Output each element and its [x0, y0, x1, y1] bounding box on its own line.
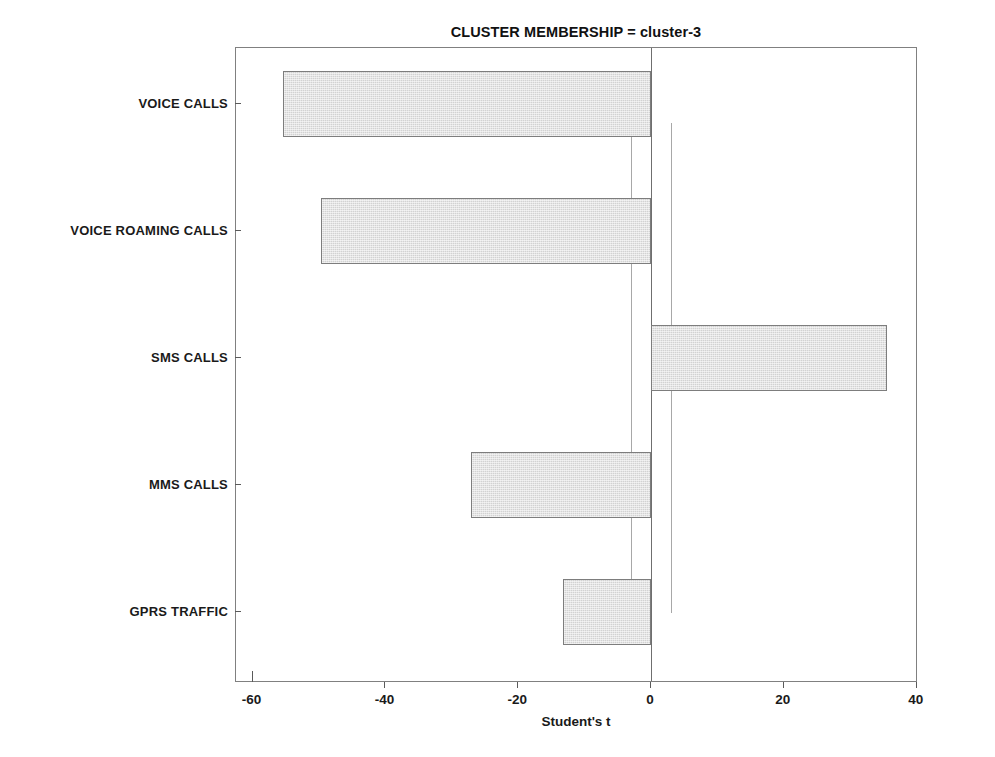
x-axis-tick-label: -20	[507, 692, 527, 707]
reference-line-negative	[631, 123, 632, 613]
x-axis-tick-label: -40	[375, 692, 395, 707]
bar	[321, 198, 651, 264]
bar	[471, 452, 651, 518]
y-axis-label-sms-calls: SMS CALLS	[151, 349, 228, 364]
y-axis-tick	[235, 103, 241, 104]
x-axis-tick	[252, 671, 253, 682]
x-axis-tick	[384, 682, 385, 688]
x-axis-tick	[517, 682, 518, 688]
chart-title: CLUSTER MEMBERSHIP = cluster-3	[235, 24, 917, 40]
y-axis-label-voice-roaming-calls: VOICE ROAMING CALLS	[70, 222, 228, 237]
x-axis-title: Student's t	[235, 714, 917, 729]
x-axis-tick-label: -60	[242, 692, 262, 707]
x-axis-tick	[783, 682, 784, 688]
x-axis-tick	[650, 682, 651, 688]
y-axis-label-voice-calls: VOICE CALLS	[138, 95, 228, 110]
chart-container: CLUSTER MEMBERSHIP = cluster-3 VOICE CAL…	[0, 0, 995, 757]
x-axis-tick-label: 20	[775, 692, 790, 707]
x-axis-tick	[916, 682, 917, 688]
bar	[563, 579, 651, 645]
plot-area	[235, 47, 917, 682]
bar	[283, 71, 651, 137]
y-axis-category-labels: VOICE CALLSVOICE ROAMING CALLSSMS CALLSM…	[0, 47, 228, 682]
x-axis-tick-label: 40	[908, 692, 923, 707]
bar	[651, 325, 887, 391]
y-axis-tick	[235, 484, 241, 485]
x-axis-tick-label: 0	[646, 692, 654, 707]
y-axis-tick	[235, 357, 241, 358]
y-axis-tick	[235, 230, 241, 231]
y-axis-label-gprs-traffic: GPRS TRAFFIC	[130, 603, 228, 618]
y-axis-label-mms-calls: MMS CALLS	[149, 476, 228, 491]
y-axis-tick	[235, 611, 241, 612]
